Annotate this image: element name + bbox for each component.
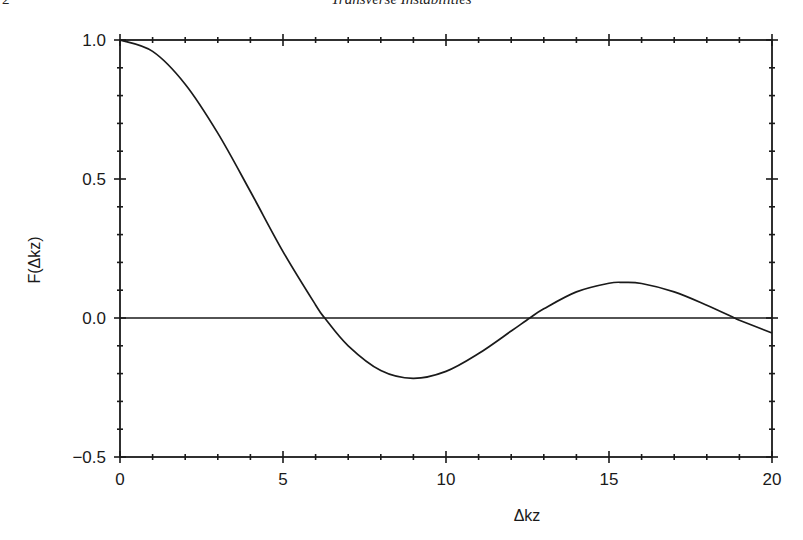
y-tick-label: 1.0	[82, 31, 106, 50]
plot-frame	[120, 40, 772, 457]
x-axis-title: Δkz	[514, 507, 541, 524]
y-tick-label: −0.5	[72, 448, 106, 467]
y-tick-label: 0.0	[82, 309, 106, 328]
axis-ticks	[114, 34, 778, 463]
x-tick-label: 15	[600, 470, 619, 489]
x-tick-labels: 05101520	[115, 470, 781, 489]
x-tick-label: 20	[763, 470, 782, 489]
x-tick-label: 5	[278, 470, 287, 489]
y-tick-label: 0.5	[82, 170, 106, 189]
x-tick-label: 10	[437, 470, 456, 489]
line-chart: 05101520 −0.50.00.51.0 Δkz F(Δkz)	[0, 0, 803, 540]
x-tick-label: 0	[115, 470, 124, 489]
y-axis-title: F(Δkz)	[26, 236, 43, 283]
data-curve	[120, 40, 772, 378]
y-tick-labels: −0.50.00.51.0	[72, 31, 106, 467]
